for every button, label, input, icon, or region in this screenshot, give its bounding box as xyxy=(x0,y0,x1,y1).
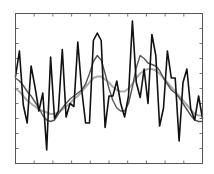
line-chart xyxy=(0,0,214,174)
